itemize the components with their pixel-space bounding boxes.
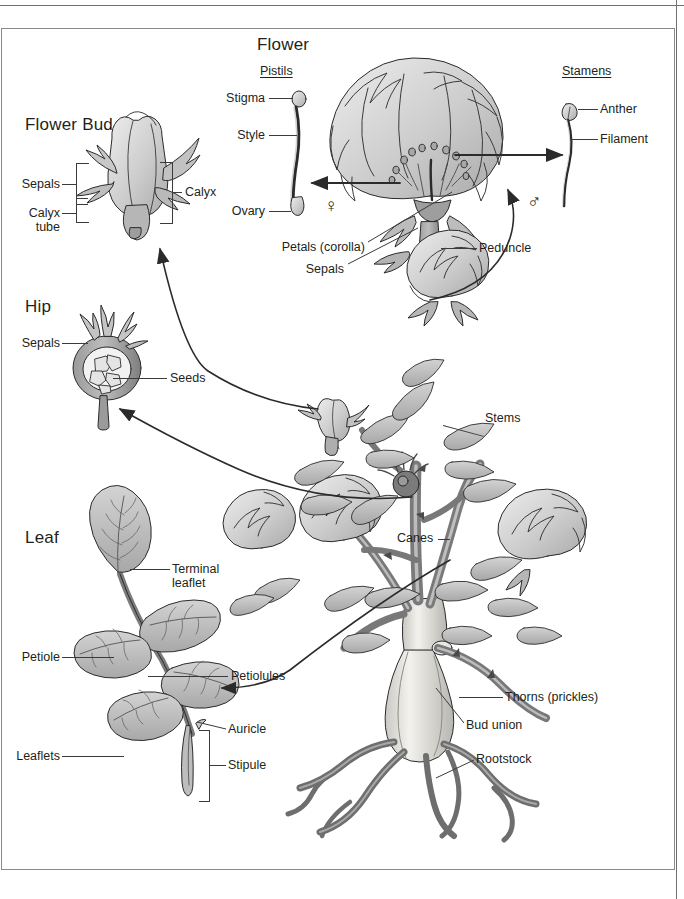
figure-page: Flower Pistils Stamens Stigma Style Ovar…	[0, 0, 684, 899]
leader-rootstock	[0, 0, 684, 899]
